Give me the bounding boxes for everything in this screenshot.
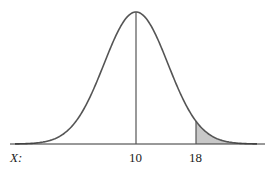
axis-label: X: bbox=[10, 151, 22, 164]
shaded-tail-region bbox=[196, 121, 257, 144]
tick-label-value: 18 bbox=[189, 151, 202, 164]
normal-curve-chart bbox=[0, 0, 272, 174]
tick-label-mean: 10 bbox=[129, 151, 142, 164]
